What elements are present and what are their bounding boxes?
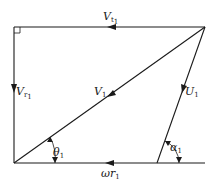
label-vt1: Vt1 [103, 10, 118, 26]
label-alpha1: α1 [170, 141, 182, 155]
arrowhead-alpha-bottom-icon [176, 157, 182, 163]
label-theta1: θ1 [53, 146, 64, 160]
label-v1: V1 [94, 85, 106, 99]
velocity-triangle-diagram: Vt1 Vr1 V1 U1 ωr1 θ1 α1 [0, 0, 222, 183]
right-angle-marker [14, 27, 20, 33]
label-u1: U1 [185, 85, 199, 99]
label-omega-r1: ωr1 [101, 167, 120, 181]
arrowhead-wr-icon [105, 160, 114, 166]
label-vr1: Vr1 [16, 85, 32, 101]
